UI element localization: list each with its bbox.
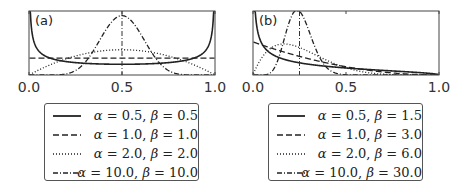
legend-label: α = 2.0, β = 6.0 (318, 146, 422, 161)
x-tick-label: 0.5 (335, 79, 357, 95)
x-tick-label: 0.0 (242, 79, 264, 95)
legend-label: α = 1.0, β = 3.0 (318, 127, 422, 142)
legend-swatch-dashed (53, 130, 82, 140)
plot-a-area: 0.00.51.0(a) (0, 0, 234, 100)
panel-b: 0.00.51.0(b) α = 0.5, β = 1.5α = 1.0, β … (234, 0, 468, 195)
legend-swatch-dotted (277, 149, 306, 159)
legend-swatch-dashed (277, 130, 306, 140)
legend-item: α = 0.5, β = 0.5 (45, 106, 198, 125)
legend-label: α = 2.0, β = 2.0 (94, 146, 198, 161)
legend-swatch-solid (277, 111, 306, 121)
legend-b: α = 0.5, β = 1.5α = 1.0, β = 3.0α = 2.0,… (268, 103, 423, 181)
legend-item: α = 10.0, β = 10.0 (45, 163, 198, 182)
plot-b-area: 0.00.51.0(b) (234, 0, 468, 100)
legend-label: α = 1.0, β = 1.0 (94, 127, 198, 142)
curve-solid (253, 11, 438, 75)
legend-item: α = 2.0, β = 2.0 (45, 144, 198, 163)
x-tick-label: 0.0 (18, 79, 40, 95)
legend-item: α = 0.5, β = 1.5 (269, 106, 422, 125)
legend-label: α = 10.0, β = 30.0 (301, 165, 422, 180)
panel-label: (b) (259, 13, 277, 28)
legend-swatch-solid (53, 111, 82, 121)
legend-swatch-dashdot (53, 168, 65, 178)
x-tick-label: 1.0 (204, 79, 226, 95)
legend-item: α = 10.0, β = 30.0 (269, 163, 422, 182)
x-tick-label: 1.0 (428, 79, 450, 95)
panel-label: (a) (35, 13, 53, 28)
legend-label: α = 0.5, β = 0.5 (94, 108, 198, 123)
legend-label: α = 0.5, β = 1.5 (318, 108, 422, 123)
plot-frame (253, 11, 439, 75)
legend-item: α = 1.0, β = 3.0 (269, 125, 422, 144)
legend-swatch-dotted (53, 149, 82, 159)
legend-swatch-dashdot (277, 168, 289, 178)
legend-item: α = 2.0, β = 6.0 (269, 144, 422, 163)
legend-label: α = 10.0, β = 10.0 (77, 165, 198, 180)
legend-item: α = 1.0, β = 1.0 (45, 125, 198, 144)
legend-a: α = 0.5, β = 0.5α = 1.0, β = 1.0α = 2.0,… (44, 103, 199, 181)
panel-a: 0.00.51.0(a) α = 0.5, β = 0.5α = 1.0, β … (0, 0, 234, 195)
x-tick-label: 0.5 (111, 79, 133, 95)
curve-dashdot (253, 11, 438, 75)
